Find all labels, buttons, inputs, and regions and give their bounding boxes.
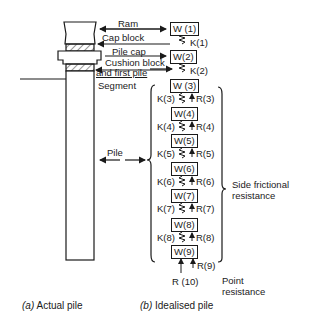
caption-a: (a) Actual pile — [22, 301, 83, 311]
spring-label-5: K(5) — [157, 149, 175, 159]
caption-b-text: Idealised pile — [155, 300, 213, 311]
resistance-label-5: R(5) — [196, 149, 214, 159]
weight-box-8: W(8) — [171, 218, 198, 232]
weight-box-7: W(7) — [171, 189, 198, 203]
spring-label-1: K(1) — [190, 38, 208, 48]
spring-label-6: K(6) — [157, 177, 175, 187]
resistance-label-9: R(9) — [197, 261, 215, 271]
spring-label-7: K(7) — [157, 204, 175, 214]
resistance-label-7: R(7) — [196, 204, 214, 214]
resistance-label-4: R(4) — [196, 122, 214, 132]
and-first-pile-label: and first pile — [96, 68, 147, 78]
segment-label: Segment — [98, 81, 136, 91]
caption-a-prefix: (a) — [22, 300, 34, 311]
spring-label-3: K(3) — [157, 94, 175, 104]
pile-label: Pile — [107, 148, 123, 158]
caption-a-text: Actual pile — [36, 300, 82, 311]
weight-box-4: W(4) — [171, 107, 198, 121]
weight-box-1: W (1) — [170, 22, 199, 36]
side-frictional-label-line2: resistance — [232, 191, 275, 201]
point-resistance-label-line2: resistance — [222, 287, 265, 297]
ram-label: Ram — [118, 19, 138, 29]
resistance-label-8: R(8) — [196, 233, 214, 243]
weight-box-5: W(5) — [171, 134, 198, 148]
point-resistance-r10-label: R (10) — [172, 277, 198, 287]
weight-box-3: W (3) — [170, 79, 199, 93]
spring-label-2: K(2) — [190, 66, 208, 76]
resistance-label-3: R(3) — [196, 94, 214, 104]
point-resistance-label-line1: Point — [222, 276, 244, 286]
side-frictional-label-line1: Side frictional — [232, 180, 289, 190]
weight-box-9: W(9) — [171, 245, 198, 259]
cap-block-label: Cap block — [102, 33, 144, 43]
caption-b: (b) Idealised pile — [140, 301, 213, 311]
pile-cap-label: Pile cap — [112, 47, 146, 57]
resistance-label-6: R(6) — [196, 177, 214, 187]
spring-label-4: K(4) — [157, 122, 175, 132]
weight-box-2: W(2) — [170, 50, 197, 64]
weight-box-6: W(6) — [171, 162, 198, 176]
spring-label-8: K(8) — [157, 233, 175, 243]
pile-diagram-lines — [0, 0, 312, 324]
caption-b-prefix: (b) — [140, 300, 152, 311]
